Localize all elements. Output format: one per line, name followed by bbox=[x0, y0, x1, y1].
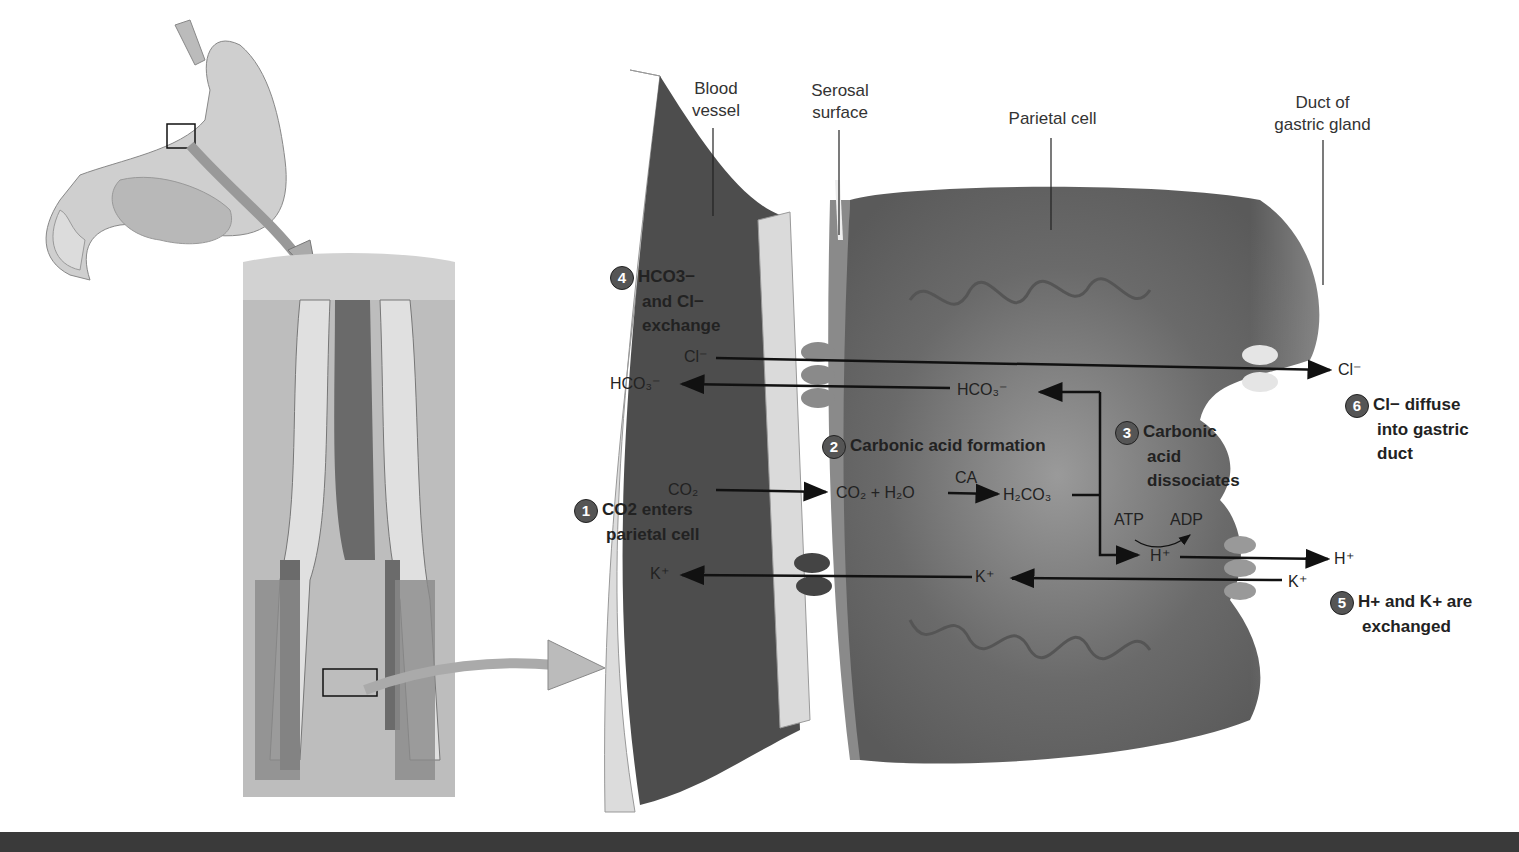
step-number-3: 3 bbox=[1115, 421, 1139, 445]
step-2-carbonic-acid-formation: 2Carbonic acid formation bbox=[822, 434, 1046, 459]
chem-hco3-left: HCO₃⁻ bbox=[610, 374, 660, 394]
chem-co2-left: CO₂ bbox=[668, 480, 698, 500]
step-number-2: 2 bbox=[822, 435, 846, 459]
chem-k-mid: K⁺ bbox=[975, 567, 994, 587]
chem-cl-left: Cl⁻ bbox=[684, 347, 707, 367]
step-number-1: 1 bbox=[574, 499, 598, 523]
label-blood-vessel: Blood vessel bbox=[676, 78, 756, 122]
chem-k-right: K⁺ bbox=[1288, 572, 1307, 592]
blood-vessel-shape bbox=[605, 70, 810, 812]
chem-k-left: K⁺ bbox=[650, 564, 669, 584]
chem-h-mid: H⁺ bbox=[1150, 546, 1170, 566]
chem-ca-enzyme: CA bbox=[955, 468, 977, 488]
step-5-h-k-exchanged: 5H+ and K+ are exchanged bbox=[1330, 590, 1472, 639]
chem-h-right: H⁺ bbox=[1334, 549, 1354, 569]
label-duct-of-gastric-gland: Duct of gastric gland bbox=[1255, 92, 1390, 136]
chem-atp: ATP bbox=[1114, 510, 1144, 530]
step-number-6: 6 bbox=[1345, 394, 1369, 418]
step-4-hco3-cl-exchange: 4HCO3− and Cl− exchange bbox=[610, 265, 720, 338]
step-6-cl-diffuse: 6Cl− diffuse into gastric duct bbox=[1345, 393, 1469, 466]
bottom-bar bbox=[0, 832, 1519, 852]
chem-h2co3: H₂CO₃ bbox=[1003, 485, 1051, 505]
step-number-5: 5 bbox=[1330, 591, 1354, 615]
gastric-gland-section bbox=[243, 253, 605, 797]
chem-hco3-mid: HCO₃⁻ bbox=[957, 380, 1007, 400]
chem-reaction: CO₂ + H₂O bbox=[836, 483, 915, 503]
step-1-co2-enters: 1CO2 enters parietal cell bbox=[574, 498, 700, 547]
chem-cl-right: Cl⁻ bbox=[1338, 360, 1361, 380]
stomach-illustration bbox=[46, 20, 318, 282]
label-serosal-surface: Serosal surface bbox=[795, 80, 885, 124]
step-3-carbonic-acid-dissociates: 3Carbonic acid dissociates bbox=[1115, 420, 1240, 493]
chem-adp: ADP bbox=[1170, 510, 1203, 530]
label-parietal-cell: Parietal cell bbox=[985, 108, 1120, 130]
step-number-4: 4 bbox=[610, 266, 634, 290]
